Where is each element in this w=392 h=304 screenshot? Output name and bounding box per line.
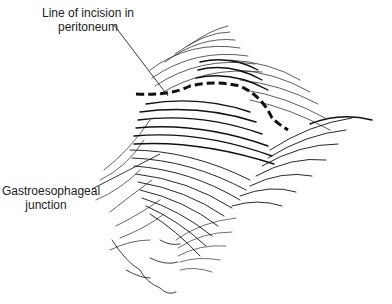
antrum-hatching (176, 218, 236, 272)
gastroesophageal-junction-label: Gastroesophageal junction (2, 184, 90, 212)
incision-label: Line of incision in peritoneum (40, 6, 136, 34)
body-hatching (130, 117, 372, 256)
incision-leader-line (114, 25, 168, 96)
omentum-outline (112, 240, 180, 293)
anatomical-illustration: Line of incision in peritoneum Gastroeso… (0, 0, 392, 304)
incision-label-line2: peritoneum (40, 20, 136, 34)
incision-label-line1: Line of incision in (40, 6, 136, 20)
stomach-line-drawing (0, 0, 392, 304)
gej-leader-line (92, 154, 160, 189)
gej-label-line1: Gastroesophageal (2, 184, 90, 198)
incision-dashed-line (136, 83, 288, 130)
gej-label-line2: junction (2, 198, 90, 212)
